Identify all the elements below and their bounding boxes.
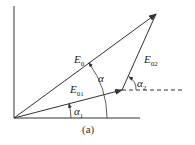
arc-alpha1	[69, 104, 71, 118]
label-e0: E0	[74, 54, 84, 68]
vector-e0	[14, 14, 156, 118]
label-alpha: α	[98, 73, 104, 84]
figure-caption: (a)	[82, 123, 94, 135]
label-alpha2: α2	[137, 78, 146, 92]
label-e02: E02	[144, 54, 158, 68]
arc-alpha2	[129, 77, 136, 90]
label-alpha1: α1	[74, 106, 83, 120]
label-e01: E01	[70, 84, 84, 98]
